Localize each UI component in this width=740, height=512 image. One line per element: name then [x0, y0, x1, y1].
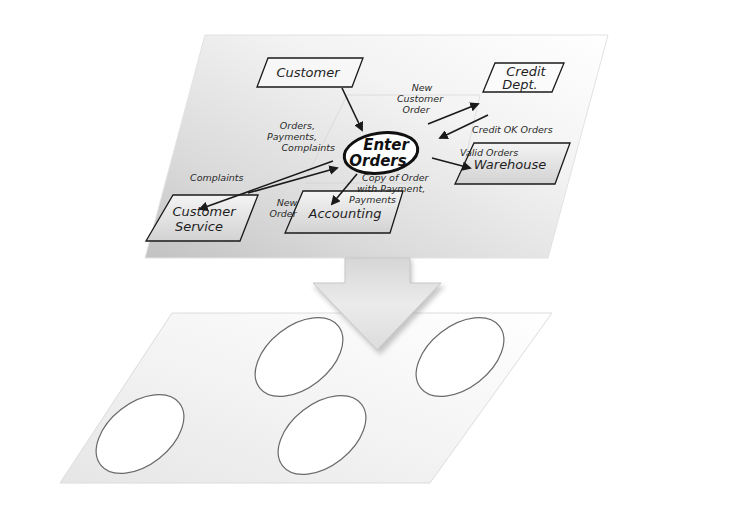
entity-warehouse-label: Warehouse	[474, 157, 547, 172]
flow-label-new-customer-order-line3: Order	[402, 104, 430, 115]
entity-customer[interactable]: Customer	[257, 58, 363, 87]
diagram-canvas: Customer Credit Dept. Warehouse Customer…	[0, 0, 740, 512]
flow-label-new-customer-order-line1: New	[412, 82, 433, 93]
flow-label-valid-orders: Valid Orders	[460, 147, 518, 158]
entity-accounting-label: Accounting	[308, 206, 382, 221]
flow-label-orders-line3: Complaints	[281, 142, 335, 153]
flow-label-copy-order-line2: with Payment,	[357, 183, 425, 194]
flow-label-complaints: Complaints	[190, 172, 244, 183]
flow-label-copy-order-line1: Copy of Order	[362, 172, 430, 183]
entity-customer-service-label-line2: Service	[175, 219, 223, 234]
entity-credit-dept-label-line2: Dept.	[502, 77, 538, 92]
flow-label-copy-order-line3: Payments	[349, 194, 396, 205]
flow-label-orders-line1: Orders,	[280, 120, 315, 131]
flow-label-orders-line2: Payments,	[267, 131, 317, 142]
bottom-plane	[60, 302, 552, 490]
top-plane: Customer Credit Dept. Warehouse Customer…	[145, 35, 608, 258]
flow-label-credit-ok: Credit OK Orders	[472, 124, 553, 135]
flow-label-new-customer-order-line2: Customer	[397, 93, 444, 104]
flow-label-new-order-line1: New	[277, 197, 298, 208]
process-enter-orders-label-line2: Orders	[349, 152, 406, 170]
entity-customer-service-label-line1: Customer	[172, 204, 237, 219]
flow-label-new-order-line2: Order	[269, 208, 297, 219]
entity-customer-label: Customer	[276, 65, 341, 80]
entity-credit-dept[interactable]: Credit Dept.	[483, 63, 564, 92]
